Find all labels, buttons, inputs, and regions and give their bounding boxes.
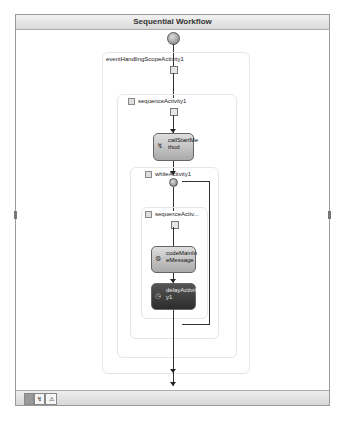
method-call-icon: ↯ <box>157 142 165 150</box>
view-tabs-bar: ↯ ⚠ <box>16 390 329 405</box>
right-resize-handle[interactable] <box>328 211 331 219</box>
expand-icon[interactable] <box>170 108 178 116</box>
activity-label-line2: thod <box>168 144 190 151</box>
fault-handler-view-tab[interactable]: ⚠ <box>45 393 57 405</box>
arrow-icon <box>170 382 176 386</box>
activity-label-line2: y1 <box>166 294 192 301</box>
code-icon: ⚙ <box>155 255 163 263</box>
call-start-method-activity[interactable]: ↯ callStartMe thod <box>153 133 194 161</box>
activity-label-line1: delayActivit <box>166 287 192 294</box>
left-resize-handle[interactable] <box>14 211 17 219</box>
sequence-activity1-label: sequenceActivity1 <box>128 98 186 105</box>
activity-label-line1: callStartMe <box>168 137 190 144</box>
collapse-icon[interactable] <box>145 211 152 218</box>
connector-line <box>173 310 174 386</box>
arrow-icon <box>170 369 176 373</box>
activity-label-line1: codeMainIn <box>166 250 192 257</box>
code-main-message-activity[interactable]: ⚙ codeMainIn eMessage <box>151 246 196 273</box>
activity-label-line2: eMessage <box>166 257 192 264</box>
collapse-icon[interactable] <box>145 171 152 178</box>
event-scope-label: eventHandlingScopeActivity1 <box>106 56 184 62</box>
connector-line <box>173 227 174 247</box>
expand-icon[interactable] <box>170 66 178 74</box>
loop-icon <box>169 178 178 187</box>
workflow-designer-frame: Sequential Workflow eventHandlingScopeAc… <box>15 14 330 406</box>
workflow-view-tab[interactable] <box>24 393 34 405</box>
while-activity1-label: whileActivity1 <box>145 171 191 178</box>
delay-activity1[interactable]: ◷ delayActivit y1 <box>151 283 196 310</box>
fault-handler-view-icon: ⚠ <box>49 396 54 402</box>
cancel-handler-view-tab[interactable]: ↯ <box>34 393 45 405</box>
collapse-icon[interactable] <box>128 98 135 105</box>
sequence-activity2-label: sequenceActiv... <box>145 211 199 218</box>
clock-icon: ◷ <box>155 292 163 300</box>
cancel-handler-view-icon: ↯ <box>37 396 42 402</box>
designer-title: Sequential Workflow <box>16 15 329 30</box>
